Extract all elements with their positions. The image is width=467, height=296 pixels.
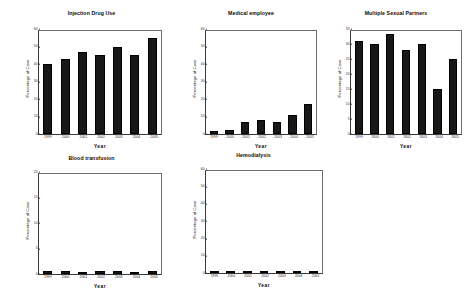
y-axis-tick: 0 <box>348 132 351 135</box>
x-axis-tick: 2004 <box>133 274 141 279</box>
x-axis-label: Year <box>205 283 323 288</box>
y-axis-tick: 0 <box>36 272 39 275</box>
bar <box>113 47 122 135</box>
bar <box>304 104 312 134</box>
bar-series <box>39 31 161 134</box>
y-axis-tick: 0 <box>203 271 206 274</box>
x-axis-tick: 2002 <box>403 134 411 139</box>
x-axis-tick: 2000 <box>62 134 70 139</box>
bar <box>257 120 265 134</box>
y-axis-tick: 10 <box>346 102 351 105</box>
x-axis-tick: 2001 <box>244 273 252 278</box>
bar <box>95 55 104 134</box>
bar <box>61 59 70 134</box>
chart-panel-medical-employee: Medical employee Percentage of Case 1999… <box>181 10 321 155</box>
bar <box>78 52 87 134</box>
x-axis-tick: 2003 <box>115 274 123 279</box>
x-axis-tick: 2002 <box>261 273 269 278</box>
bar-series <box>206 31 316 134</box>
y-axis-label: Percentage of Case <box>337 44 342 114</box>
bar <box>418 44 426 134</box>
bar <box>449 59 457 134</box>
x-axis-label: Year <box>38 144 162 149</box>
y-axis-tick: 25 <box>346 57 351 60</box>
y-axis-tick: 50 <box>34 45 39 48</box>
y-axis-tick: 20 <box>201 237 206 240</box>
y-axis-tick: 40 <box>34 62 39 65</box>
y-axis-label: Percentage of Case <box>192 185 197 255</box>
x-axis-label: Year <box>350 144 462 149</box>
chart-panel-hemodialysis: Hemodialysis Percentage of Case 19992000… <box>181 152 326 296</box>
chart-panel-blood-transfusion: Blood transfusion Percentage of Case 199… <box>14 155 169 296</box>
plot-frame: 1999200020012002200320042005010203040506… <box>205 30 317 135</box>
y-axis-tick: 30 <box>346 42 351 45</box>
x-axis-tick: 2003 <box>274 134 282 139</box>
y-axis-tick: 0 <box>36 132 39 135</box>
y-axis-tick: 5 <box>348 117 351 120</box>
y-axis-tick: 35 <box>346 27 351 30</box>
bar <box>43 64 52 134</box>
plot-frame: 1999200020012002200320042005010203040506… <box>205 170 323 274</box>
y-axis-tick: 30 <box>201 219 206 222</box>
y-axis-tick: 20 <box>201 97 206 100</box>
bar-series <box>39 174 161 274</box>
y-axis-tick: 60 <box>201 27 206 30</box>
x-axis-tick: 1999 <box>355 134 363 139</box>
y-axis-label: Percentage of Case <box>192 44 197 114</box>
x-axis-tick: 2003 <box>115 134 123 139</box>
x-axis-tick: 1999 <box>44 274 52 279</box>
bar <box>433 89 441 134</box>
plot-area: Percentage of Case 199920002001200220032… <box>181 10 321 155</box>
bar <box>148 38 157 134</box>
y-axis-tick: 60 <box>34 27 39 30</box>
y-axis-tick: 5 <box>36 247 39 250</box>
x-axis-tick: 2001 <box>80 274 88 279</box>
bar <box>355 41 363 134</box>
x-axis-tick: 2003 <box>419 134 427 139</box>
plot-frame: 1999200020012002200320042005010203040506… <box>38 30 162 135</box>
plot-area: Percentage of Case 199920002001200220032… <box>14 10 169 155</box>
x-axis-tick: 1999 <box>210 134 218 139</box>
bar <box>241 122 249 134</box>
x-axis-tick: 2000 <box>228 273 236 278</box>
y-axis-tick: 10 <box>34 115 39 118</box>
x-axis-tick: 2002 <box>97 274 105 279</box>
x-axis-tick: 2005 <box>150 274 158 279</box>
plot-area: Percentage of Case 199920002001200220032… <box>326 10 466 155</box>
y-axis-tick: 20 <box>34 170 39 173</box>
y-axis-tick: 40 <box>201 202 206 205</box>
bar-series <box>351 31 461 134</box>
y-axis-tick: 15 <box>346 87 351 90</box>
bar <box>402 50 410 134</box>
x-axis-label: Year <box>38 284 162 289</box>
x-axis-tick: 2004 <box>133 134 141 139</box>
x-axis-tick: 2000 <box>62 274 70 279</box>
bar <box>130 55 139 134</box>
x-axis-tick: 2005 <box>306 134 314 139</box>
y-axis-tick: 10 <box>201 254 206 257</box>
bar <box>288 115 296 134</box>
y-axis-tick: 50 <box>201 185 206 188</box>
x-axis-tick: 2002 <box>97 134 105 139</box>
x-axis-tick: 2001 <box>80 134 88 139</box>
x-axis-tick: 2004 <box>290 134 298 139</box>
plot-area: Percentage of Case 199920002001200220032… <box>14 155 169 296</box>
y-axis-tick: 10 <box>34 221 39 224</box>
x-axis-label: Year <box>205 144 317 149</box>
x-axis-tick: 2000 <box>371 134 379 139</box>
plot-frame: 199920002001200220032004200505101520 <box>38 173 162 275</box>
plot-area: Percentage of Case 199920002001200220032… <box>181 152 326 296</box>
y-axis-tick: 10 <box>201 115 206 118</box>
bar-series <box>206 171 322 273</box>
chart-panel-injection-drug-use: Injection Drug Use Percentage of Case 19… <box>14 10 169 155</box>
y-axis-tick: 0 <box>203 132 206 135</box>
chart-panel-multiple-sexual-partners: Multiple Sexual Partners Percentage of C… <box>326 10 466 155</box>
y-axis-tick: 60 <box>201 167 206 170</box>
x-axis-tick: 2004 <box>295 273 303 278</box>
y-axis-tick: 15 <box>34 196 39 199</box>
x-axis-tick: 2005 <box>150 134 158 139</box>
y-axis-tick: 40 <box>201 62 206 65</box>
y-axis-label: Percentage of Case <box>25 186 30 256</box>
x-axis-tick: 2003 <box>278 273 286 278</box>
x-axis-tick: 2005 <box>451 134 459 139</box>
